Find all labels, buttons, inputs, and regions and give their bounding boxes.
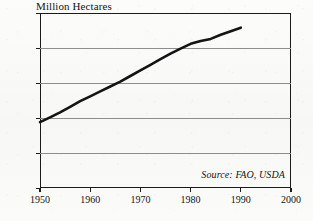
source-annotation: Source: FAO, USDA — [201, 169, 285, 180]
series-polyline — [40, 28, 241, 123]
x-tick-label-1990: 1990 — [221, 195, 261, 205]
x-tick-label-1970: 1970 — [120, 195, 160, 205]
series-line-irrigated-area — [40, 13, 291, 188]
x-tick-label-1950: 1950 — [20, 195, 60, 205]
x-tick-label-2000: 2000 — [271, 195, 311, 205]
x-tick-1960 — [90, 188, 91, 192]
x-tick-1970 — [140, 188, 141, 192]
x-tick-1990 — [240, 188, 241, 192]
y-axis-unit-title: Million Hectares — [36, 0, 112, 13]
chart-figure: Million Hectares 250200150100500 1950196… — [0, 0, 313, 221]
plot-area: 250200150100500 195019601970198019902000… — [40, 13, 291, 188]
x-tick-label-1960: 1960 — [70, 195, 110, 205]
x-tick-2000 — [290, 188, 291, 192]
x-tick-label-1980: 1980 — [171, 195, 211, 205]
x-tick-1980 — [190, 188, 191, 192]
x-tick-1950 — [39, 188, 40, 192]
